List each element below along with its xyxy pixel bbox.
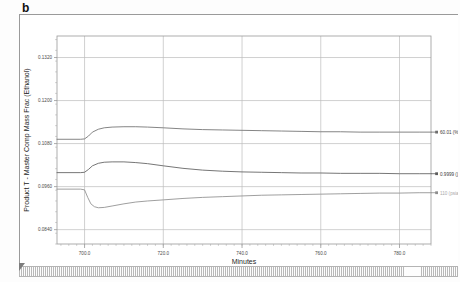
x-tick-label: 740.0: [236, 251, 248, 256]
legend-marker-0: [435, 131, 438, 134]
legend-label-1: 0.9999 (): [440, 172, 458, 177]
legend-label-2: 110 (psia): [440, 191, 458, 196]
y-tick-label: 0.0960: [38, 184, 52, 189]
x-axis-title: Minutes: [232, 258, 257, 265]
legend-label-0: 60.01 (%): [440, 130, 458, 135]
panel-letter-label: b: [22, 1, 29, 15]
x-tick-label: 780.0: [394, 251, 406, 256]
figure-panel: b 0.13200.12000.10800.09600.0840 700.072…: [0, 0, 460, 282]
plot-background: [57, 36, 431, 244]
horizontal-scrollbar[interactable]: [19, 266, 458, 277]
y-tick-label: 0.1320: [38, 55, 52, 60]
legend-marker-2: [435, 191, 438, 194]
x-tick-label: 720.0: [158, 251, 170, 256]
y-tick-label: 0.0840: [38, 227, 52, 232]
legend-group: 60.01 (%)0.9999 ()110 (psia): [431, 130, 458, 196]
legend-marker-1: [435, 172, 438, 175]
line-chart: 0.13200.12000.10800.09600.0840 700.0720.…: [19, 14, 458, 270]
y-axis-ticks: 0.13200.12000.10800.09600.0840: [38, 55, 57, 232]
y-tick-label: 0.1200: [38, 98, 52, 103]
x-tick-label: 760.0: [315, 251, 327, 256]
y-axis-title: Product T - Master Comp Mass Frac (Ethan…: [23, 68, 31, 211]
y-tick-label: 0.1080: [38, 141, 52, 146]
scrollbar-track-gap: [404, 267, 421, 276]
x-tick-label: 700.0: [79, 251, 91, 256]
